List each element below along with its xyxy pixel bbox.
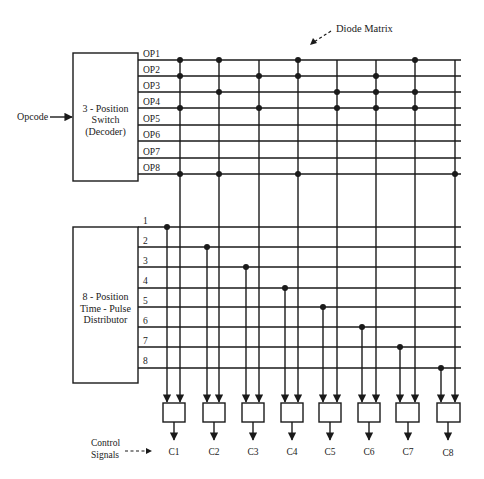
diode-dot-icon — [452, 171, 458, 177]
decoder-label-line3: (Decoder) — [85, 126, 126, 138]
diode-dot-icon — [295, 73, 301, 79]
and-gate-c2 — [203, 403, 225, 422]
decoder-label-line1: 3 - Position — [82, 103, 128, 114]
time-label: 6 — [143, 316, 148, 326]
control-label: C7 — [402, 447, 413, 457]
time-label: 4 — [143, 276, 148, 286]
control-signals-pointer-icon — [125, 448, 152, 454]
control-signals-label-line1: Control — [91, 438, 120, 448]
op-label: OP1 — [143, 49, 160, 59]
time-tap-dot-icon — [359, 324, 365, 330]
time-tap-dot-icon — [320, 304, 326, 310]
diode-dot-icon — [295, 171, 301, 177]
diode-dot-icon — [334, 89, 340, 95]
control-label: C3 — [247, 447, 258, 457]
and-gate-c6 — [358, 403, 380, 422]
diode-dot-icon — [295, 57, 301, 63]
control-label: C1 — [168, 447, 179, 457]
time-tap-dot-icon — [164, 224, 170, 230]
op-label: OP7 — [143, 147, 160, 157]
and-gate-c3 — [242, 403, 264, 422]
time-tap-dots — [164, 224, 444, 371]
diode-matrix-pointer-icon — [310, 31, 331, 45]
time-vertical-lines — [167, 227, 441, 402]
diode-dot-icon — [412, 105, 418, 111]
control-label: C6 — [363, 447, 374, 457]
op-label: OP3 — [143, 81, 160, 91]
time-tap-dot-icon — [243, 264, 249, 270]
opcode-input-label: Opcode — [17, 111, 49, 122]
and-gates — [163, 403, 460, 422]
time-tap-dot-icon — [438, 365, 444, 371]
time-tap-dot-icon — [282, 285, 288, 291]
diode-dot-icon — [373, 89, 379, 95]
gate-output-arrows — [174, 422, 448, 440]
time-label: 1 — [143, 216, 148, 226]
time-label: 2 — [143, 236, 148, 246]
diode-dot-icon — [373, 105, 379, 111]
diode-dot-icon — [334, 105, 340, 111]
time-label: 8 — [143, 356, 148, 366]
control-label: C2 — [208, 447, 219, 457]
diode-dot-icon — [216, 57, 222, 63]
op-label: OP4 — [143, 97, 160, 107]
control-label: C8 — [442, 448, 453, 458]
time-pulse-lines — [138, 227, 461, 368]
and-gate-c7 — [396, 403, 419, 422]
and-gate-c1 — [163, 403, 185, 422]
control-signals-label-line2: Signals — [91, 450, 119, 460]
time-label: 5 — [143, 296, 148, 306]
diode-dot-icon — [216, 171, 222, 177]
op-label: OP2 — [143, 65, 160, 75]
opcode-labels: OP1 OP2 OP3 OP4 OP5 OP6 OP7 OP8 — [143, 49, 160, 173]
distributor-label-line2: Time - Pulse — [80, 303, 131, 314]
and-gate-c5 — [319, 403, 341, 422]
op-label: OP8 — [143, 163, 160, 173]
time-label: 3 — [143, 256, 148, 266]
control-label: C4 — [286, 447, 297, 457]
diode-dot-icon — [256, 105, 262, 111]
diode-dot-icon — [177, 171, 183, 177]
decoder-label-line2: Switch — [92, 114, 120, 125]
distributor-label-line3: Distributor — [84, 314, 129, 325]
op-label: OP6 — [143, 130, 160, 140]
diode-dot-icon — [256, 73, 262, 79]
diode-dot-icon — [177, 73, 183, 79]
diode-dot-icon — [412, 57, 418, 63]
time-tap-dot-icon — [204, 244, 210, 250]
time-tap-dot-icon — [397, 344, 403, 350]
time-labels: 1 2 3 4 5 6 7 8 — [143, 216, 148, 366]
and-gate-c4 — [281, 403, 303, 422]
and-gate-c8 — [437, 403, 460, 422]
distributor-label-line1: 8 - Position — [82, 291, 128, 302]
op-label: OP5 — [143, 114, 160, 124]
control-output-labels: C1 C2 C3 C4 C5 C6 C7 C8 — [168, 447, 453, 458]
opcode-vertical-lines — [180, 60, 455, 402]
diode-dot-icon — [373, 73, 379, 79]
diode-dot-icon — [177, 57, 183, 63]
diode-dot-icon — [412, 89, 418, 95]
control-label: C5 — [324, 447, 335, 457]
time-label: 7 — [143, 336, 148, 346]
diode-dot-icon — [177, 105, 183, 111]
control-unit-diagram: Diode Matrix 3 - Position Switch (Decode… — [0, 0, 484, 479]
diode-dot-icon — [216, 89, 222, 95]
diode-matrix-label: Diode Matrix — [336, 23, 394, 34]
